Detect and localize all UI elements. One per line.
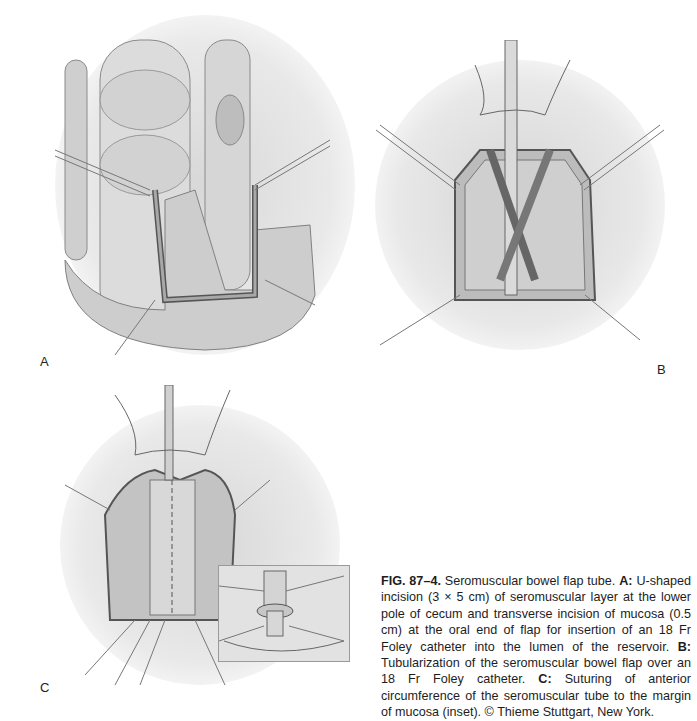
panel-label-b: B xyxy=(657,362,666,377)
caption-label-a: A: xyxy=(619,574,632,588)
inset-suture-detail-illustration xyxy=(219,566,349,661)
inset-detail xyxy=(218,565,350,662)
caption-label-b: B: xyxy=(678,640,691,654)
copyright-notice: © Thieme Stuttgart, New York. xyxy=(485,705,654,719)
flap-tubularization-illustration xyxy=(370,40,670,350)
illustration-panel-a xyxy=(55,10,355,355)
figure-number: FIG. 87–4. xyxy=(381,574,441,588)
figure-caption: FIG. 87–4. Seromuscular bowel flap tube.… xyxy=(381,573,691,721)
caption-label-c: C: xyxy=(538,672,551,686)
panel-label-a: A xyxy=(40,354,49,369)
panel-label-c: C xyxy=(40,680,49,695)
illustration-panel-b xyxy=(370,40,670,350)
figure-title: Seromuscular bowel flap tube. xyxy=(441,574,619,588)
cecum-u-incision-illustration xyxy=(55,10,355,355)
